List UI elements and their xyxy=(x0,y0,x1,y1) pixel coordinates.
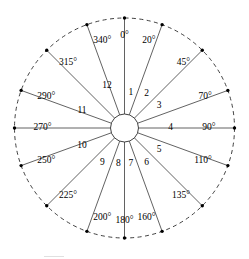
sector-boundary-line-135 xyxy=(134,138,202,206)
tick-dot-0 xyxy=(123,16,126,19)
angle-label-270: 270° xyxy=(34,122,52,132)
angle-label-290: 290° xyxy=(37,91,55,101)
tick-dot-45 xyxy=(201,49,204,52)
sector-label-4: 4 xyxy=(168,122,173,132)
angle-label-180: 180° xyxy=(115,215,133,225)
sector-label-7: 7 xyxy=(128,158,133,168)
sector-label-3: 3 xyxy=(157,100,162,110)
angle-label-45: 45° xyxy=(177,57,191,67)
sector-label-1: 1 xyxy=(128,87,133,97)
angle-label-20: 20° xyxy=(142,35,156,45)
sector-diagram-canvas: 0°20°45°70°90°110°135°160°180°200°225°25… xyxy=(0,0,249,259)
sector-label-11: 11 xyxy=(77,105,86,115)
tick-dot-20 xyxy=(160,23,163,26)
tick-dot-340 xyxy=(85,23,88,26)
sector-label-6: 6 xyxy=(144,157,149,167)
sector-boundary-line-250 xyxy=(21,133,111,166)
tick-dot-250 xyxy=(19,164,22,167)
tick-dot-180 xyxy=(123,236,126,239)
angle-label-70: 70° xyxy=(199,91,213,101)
tick-dot-135 xyxy=(201,204,204,207)
tick-dot-225 xyxy=(45,204,48,207)
radial-sector-diagram: 0°20°45°70°90°110°135°160°180°200°225°25… xyxy=(0,0,249,259)
angle-label-0: 0° xyxy=(120,30,129,40)
tick-dot-270 xyxy=(13,126,16,129)
tick-dot-290 xyxy=(19,89,22,92)
tick-dot-70 xyxy=(226,89,229,92)
center-hub-group xyxy=(111,114,139,142)
angle-label-135: 135° xyxy=(172,190,190,200)
angle-label-315: 315° xyxy=(59,57,77,67)
sector-boundary-line-290 xyxy=(21,90,111,123)
sector-boundary-line-110 xyxy=(138,133,228,166)
sector-label-9: 9 xyxy=(100,157,105,167)
sector-boundary-line-70 xyxy=(138,90,228,123)
tick-dot-160 xyxy=(160,230,163,233)
sector-label-10: 10 xyxy=(77,140,87,150)
angle-label-90: 90° xyxy=(202,122,216,132)
sector-label-5: 5 xyxy=(157,144,162,154)
tick-dot-110 xyxy=(226,164,229,167)
angle-label-110: 110° xyxy=(194,155,212,165)
angle-label-160: 160° xyxy=(138,212,156,222)
center-hub-circle xyxy=(111,114,139,142)
angle-label-225: 225° xyxy=(59,190,77,200)
angle-label-340: 340° xyxy=(93,35,111,45)
sector-label-12: 12 xyxy=(102,80,112,90)
tick-dot-90 xyxy=(233,126,236,129)
angle-label-250: 250° xyxy=(37,155,55,165)
tick-dot-315 xyxy=(45,49,48,52)
sector-label-2: 2 xyxy=(144,88,149,98)
tick-dot-200 xyxy=(85,230,88,233)
sector-boundary-line-45 xyxy=(134,50,202,118)
sector-label-8: 8 xyxy=(116,158,121,168)
angle-label-200: 200° xyxy=(93,212,111,222)
